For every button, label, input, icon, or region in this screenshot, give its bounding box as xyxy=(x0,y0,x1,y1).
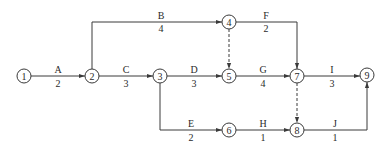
node-7-label: 7 xyxy=(295,71,300,82)
activity-e: E 2 xyxy=(160,83,222,143)
activity-e-name: E xyxy=(188,118,194,129)
node-5: 5 xyxy=(222,69,236,83)
activity-g: G 4 xyxy=(236,64,290,89)
activity-d: D 3 xyxy=(167,64,222,89)
node-1-label: 1 xyxy=(22,71,27,82)
node-6-label: 6 xyxy=(227,125,232,136)
activity-c: C 3 xyxy=(99,64,153,89)
activity-g-duration: 4 xyxy=(261,78,266,89)
node-9-label: 9 xyxy=(365,70,370,81)
activity-f: F 2 xyxy=(236,10,297,69)
node-9: 9 xyxy=(360,68,374,82)
activity-g-name: G xyxy=(259,64,266,75)
activity-a: A 2 xyxy=(31,64,85,89)
node-3-label: 3 xyxy=(158,71,163,82)
node-6: 6 xyxy=(222,123,236,137)
activity-h: H 1 xyxy=(236,118,290,143)
activity-f-name: F xyxy=(263,10,269,21)
activity-b-duration: 4 xyxy=(159,23,164,34)
node-2-label: 2 xyxy=(90,71,95,82)
activity-d-duration: 3 xyxy=(192,78,197,89)
network-diagram: A 2 B 4 C 3 D 3 E 2 F 2 G 4 H 1 xyxy=(0,0,385,150)
node-8: 8 xyxy=(290,123,304,137)
activity-h-name: H xyxy=(259,118,266,129)
activity-b: B 4 xyxy=(92,10,222,69)
activity-c-name: C xyxy=(123,64,130,75)
activity-j-name: J xyxy=(333,118,337,129)
activity-a-duration: 2 xyxy=(56,78,61,89)
node-1: 1 xyxy=(17,69,31,83)
activity-c-duration: 3 xyxy=(124,78,129,89)
node-4-label: 4 xyxy=(227,17,232,28)
node-8-label: 8 xyxy=(295,125,300,136)
node-2: 2 xyxy=(85,69,99,83)
activity-d-name: D xyxy=(190,64,197,75)
node-4: 4 xyxy=(222,15,236,29)
node-5-label: 5 xyxy=(227,71,232,82)
node-7: 7 xyxy=(290,69,304,83)
activity-h-duration: 1 xyxy=(261,132,266,143)
activity-i: I 3 xyxy=(304,64,360,89)
activity-b-name: B xyxy=(158,10,165,21)
activity-f-duration: 2 xyxy=(264,23,269,34)
activity-j-duration: 1 xyxy=(333,132,338,143)
activity-e-duration: 2 xyxy=(189,132,194,143)
activity-i-duration: 3 xyxy=(330,78,335,89)
activity-i-name: I xyxy=(330,64,333,75)
activity-a-name: A xyxy=(54,64,62,75)
activity-j: J 1 xyxy=(304,82,367,143)
node-3: 3 xyxy=(153,69,167,83)
